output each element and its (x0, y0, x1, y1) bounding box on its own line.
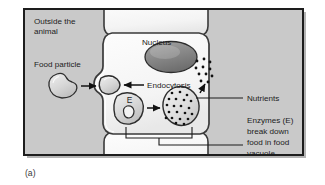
label-nutrients: Nutrients (247, 94, 279, 103)
label-enzymes-line2: break down (247, 127, 289, 136)
label-outside-animal-line2: animal (34, 27, 58, 36)
endocytosis-diagram: E (0, 0, 325, 185)
lysosome-inner-vesicle (123, 106, 134, 118)
label-food-particle: Food particle (34, 60, 81, 69)
label-nucleus: Nucleus (142, 38, 171, 47)
label-enzymes-line1: Enzymes (E) (247, 116, 294, 125)
nucleus-highlight (150, 45, 180, 59)
label-endocytosis: Endocytosis (147, 81, 191, 90)
enzyme-label-E: E (127, 95, 133, 105)
endocytosis-figure: E (0, 0, 325, 185)
forming-vesicle (99, 76, 120, 95)
label-outside-animal-line1: Outside the (34, 17, 76, 26)
label-enzymes-line3: food in food (247, 138, 289, 147)
label-enzymes-line4: vacuole (247, 149, 275, 158)
figure-caption: (a) (25, 168, 36, 178)
